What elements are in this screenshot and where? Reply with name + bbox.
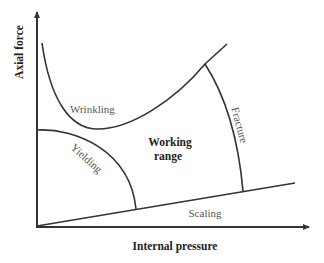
- x-axis-label: Internal pressure: [133, 240, 218, 253]
- yielding-label: Yielding: [69, 141, 106, 176]
- fracture-label: Fracture: [229, 106, 250, 145]
- wrinkling-curve: [42, 43, 227, 129]
- scaling-label: Scaling: [189, 207, 222, 219]
- scaling-line: [37, 183, 295, 226]
- y-axis-label: Axial force: [13, 25, 25, 79]
- working-range-label-line2: range: [154, 150, 182, 163]
- forming-window-diagram: Internal pressure Axial force Wrinkling …: [0, 0, 324, 263]
- wrinkling-label: Wrinkling: [70, 103, 115, 115]
- yielding-curve: [37, 130, 136, 209]
- working-range-label-line1: Working: [148, 136, 192, 149]
